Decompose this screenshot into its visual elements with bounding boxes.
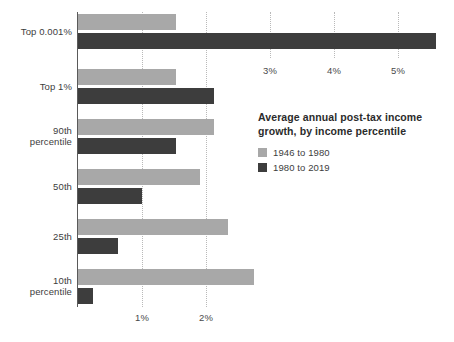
tick-label-top-5: 5% [391,65,405,76]
category-label-line-1: 25th [0,231,72,243]
tick-label-top-3: 3% [263,65,277,76]
bar-5-series-0 [78,269,254,285]
category-label-line-1: 50th [0,181,72,193]
category-label-line-2: percentile [0,286,72,298]
legend-swatch-dark [258,163,267,172]
legend-swatch-light [258,148,267,157]
bar-0-series-0 [78,14,176,30]
bar-2-series-0 [78,119,214,135]
legend-label-1: 1980 to 2019 [273,162,330,173]
gridline-bottom-2 [206,12,207,307]
chart-legend: Average annual post-tax income growth, b… [258,110,450,177]
bar-3-series-0 [78,169,200,185]
tick-label-top-4: 4% [327,65,341,76]
legend-title-line-2: growth, by income percentile [258,125,406,137]
legend-label-0: 1946 to 1980 [273,147,330,158]
bar-4-series-0 [78,219,228,235]
category-label-line-1: Top 0.001% [0,26,72,38]
category-label-0: Top 0.001% [0,26,72,38]
legend-title: Average annual post-tax income growth, b… [258,110,450,138]
category-label-2: 90thpercentile [0,125,72,148]
bar-1-series-0 [78,69,176,85]
legend-item-0: 1946 to 1980 [258,147,450,158]
legend-title-line-1: Average annual post-tax income [258,111,422,123]
tick-label-bottom-2: 2% [199,312,213,323]
category-label-line-2: percentile [0,136,72,148]
category-label-4: 25th [0,231,72,243]
category-label-1: Top 1% [0,81,72,93]
y-axis-line [77,12,78,307]
gridline-bottom-1 [142,12,143,307]
bar-1-series-1 [78,88,214,104]
category-label-line-1: 10th [0,275,72,287]
legend-item-1: 1980 to 2019 [258,162,450,173]
bar-3-series-1 [78,188,142,204]
legend-entries: 1946 to 19801980 to 2019 [258,147,450,173]
category-label-5: 10thpercentile [0,275,72,298]
category-label-3: 50th [0,181,72,193]
category-label-line-1: Top 1% [0,81,72,93]
tick-label-bottom-1: 1% [135,312,149,323]
bar-4-series-1 [78,238,118,254]
bar-2-series-1 [78,138,176,154]
category-label-line-1: 90th [0,125,72,137]
income-growth-bar-chart: 3%4%5%1%2% Top 0.001%Top 1%90thpercentil… [0,0,454,342]
bar-0-series-1 [78,33,436,49]
bar-5-series-1 [78,288,93,304]
